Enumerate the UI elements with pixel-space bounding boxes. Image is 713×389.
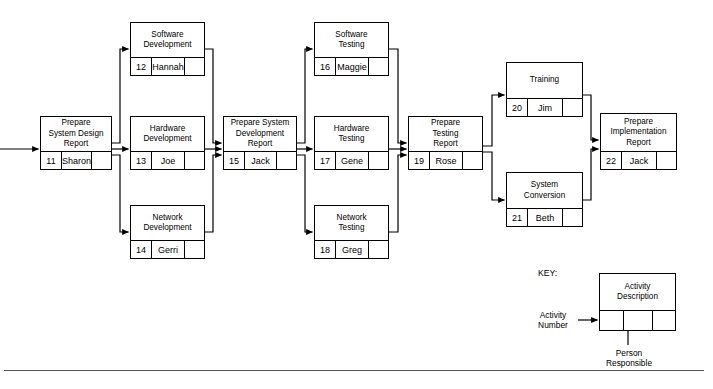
activity-blank-cell	[369, 152, 388, 169]
activity-node-12[interactable]: Software Development 12 Hannah	[130, 22, 205, 76]
activity-blank-cell	[185, 152, 204, 169]
activity-footer: 17 Gene	[315, 151, 388, 169]
person-responsible: Jack	[245, 152, 277, 169]
key-sample-node: Activity Description	[599, 273, 676, 331]
key-blank-cell	[653, 311, 675, 330]
person-responsible: Sharon	[62, 152, 92, 169]
activity-description: Prepare System Design Report	[41, 117, 111, 151]
activity-number: 13	[131, 152, 152, 169]
activity-footer: 22 Jack	[601, 151, 676, 169]
activity-description: Software Development	[131, 23, 204, 57]
activity-node-16[interactable]: Software Testing 16 Maggie	[314, 22, 389, 76]
diagram-canvas: Prepare System Design Report 11 Sharon S…	[0, 0, 713, 389]
activity-footer: 20 Jim	[507, 98, 582, 116]
key-heading: KEY:	[538, 268, 557, 278]
activity-footer: 12 Hannah	[131, 57, 204, 75]
activity-number: 16	[315, 58, 336, 75]
activity-number: 14	[131, 241, 152, 258]
activity-number: 11	[41, 152, 62, 169]
activity-footer: 21 Beth	[507, 208, 582, 226]
activity-blank-cell	[657, 152, 676, 169]
activity-description: Software Testing	[315, 23, 388, 57]
bottom-divider	[4, 370, 704, 371]
activity-node-17[interactable]: Hardware Testing 17 Gene	[314, 116, 389, 170]
activity-blank-cell	[463, 152, 482, 169]
person-responsible: Gerri	[152, 241, 185, 258]
person-responsible: Beth	[528, 209, 563, 226]
key-person-cell	[624, 311, 653, 330]
activity-footer: 19 Rose	[409, 151, 482, 169]
person-responsible: Jack	[622, 152, 657, 169]
activity-description: Prepare Implementation Report	[601, 114, 676, 151]
activity-number: 20	[507, 99, 528, 116]
activity-number: 15	[224, 152, 245, 169]
activity-node-13[interactable]: Hardware Development 13 Joe	[130, 116, 205, 170]
key-footer	[600, 310, 675, 330]
activity-description: Training	[507, 63, 582, 98]
activity-node-20[interactable]: Training 20 Jim	[506, 62, 583, 117]
person-responsible: Gene	[336, 152, 369, 169]
activity-node-15[interactable]: Prepare System Development Report 15 Jac…	[223, 116, 297, 170]
activity-description: System Conversion	[507, 173, 582, 208]
activity-blank-cell	[563, 99, 582, 116]
activity-node-21[interactable]: System Conversion 21 Beth	[506, 172, 583, 227]
activity-footer: 13 Joe	[131, 151, 204, 169]
person-responsible: Hannah	[152, 58, 185, 75]
person-responsible: Rose	[430, 152, 463, 169]
activity-description: Prepare Testing Report	[409, 117, 482, 151]
activity-blank-cell	[185, 241, 204, 258]
activity-blank-cell	[369, 241, 388, 258]
activity-number: 18	[315, 241, 336, 258]
activity-blank-cell	[277, 152, 296, 169]
activity-footer: 14 Gerri	[131, 240, 204, 258]
key-activity-number-label: Activity Number	[528, 310, 578, 330]
activity-node-19[interactable]: Prepare Testing Report 19 Rose	[408, 116, 483, 170]
activity-description: Network Development	[131, 206, 204, 240]
person-responsible: Maggie	[336, 58, 369, 75]
activity-footer: 16 Maggie	[315, 57, 388, 75]
activity-footer: 15 Jack	[224, 151, 296, 169]
activity-footer: 18 Greg	[315, 240, 388, 258]
key-activity-description-label: Activity Description	[600, 274, 675, 310]
activity-number: 17	[315, 152, 336, 169]
activity-node-18[interactable]: Network Testing 18 Greg	[314, 205, 389, 259]
activity-blank-cell	[563, 209, 582, 226]
person-responsible: Greg	[336, 241, 369, 258]
activity-description: Hardware Testing	[315, 117, 388, 151]
activity-description: Prepare System Development Report	[224, 117, 296, 151]
activity-description: Network Testing	[315, 206, 388, 240]
activity-number: 19	[409, 152, 430, 169]
activity-blank-cell	[369, 58, 388, 75]
activity-footer: 11 Sharon	[41, 151, 111, 169]
activity-blank-cell	[185, 58, 204, 75]
activity-blank-cell	[92, 152, 111, 169]
activity-number: 12	[131, 58, 152, 75]
key-person-responsible-label: Person Responsible	[600, 348, 658, 368]
activity-number: 21	[507, 209, 528, 226]
activity-node-11[interactable]: Prepare System Design Report 11 Sharon	[40, 116, 112, 170]
activity-number: 22	[601, 152, 622, 169]
activity-node-22[interactable]: Prepare Implementation Report 22 Jack	[600, 113, 677, 170]
person-responsible: Jim	[528, 99, 563, 116]
activity-description: Hardware Development	[131, 117, 204, 151]
activity-node-14[interactable]: Network Development 14 Gerri	[130, 205, 205, 259]
key-activity-number-cell	[600, 311, 624, 330]
person-responsible: Joe	[152, 152, 185, 169]
